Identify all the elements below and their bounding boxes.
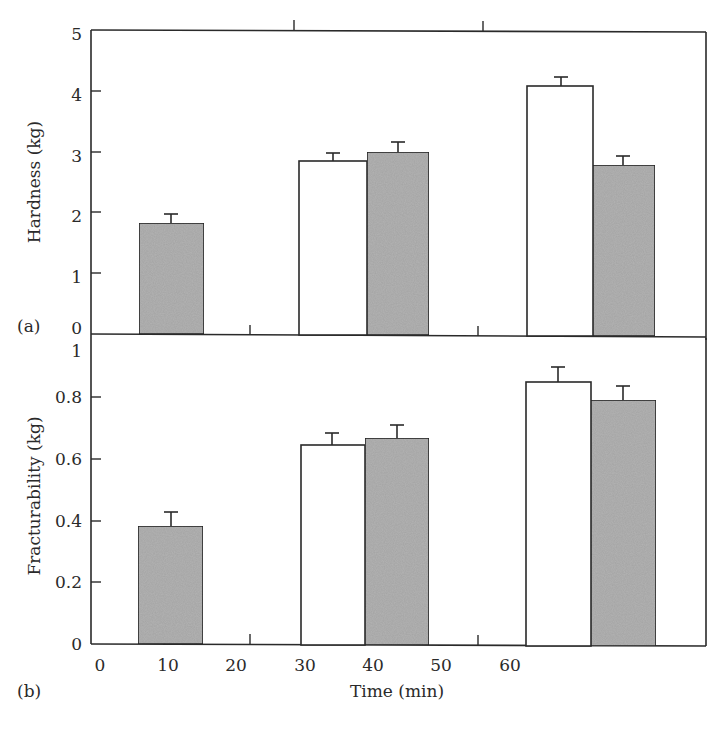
panel-b-ylabel: Fracturability (kg)	[24, 416, 44, 575]
panel-a-bars	[139, 86, 655, 336]
panel-a-ylabel: Hardness (kg)	[24, 121, 44, 243]
panel-b: 1 0.8 0.6 0.4 0.2 0 0 10 20 30 40 50 60 …	[17, 335, 706, 701]
ytick-label: 0.8	[55, 387, 82, 407]
xtick-label: 20	[225, 655, 247, 675]
panel-b-label: (b)	[17, 681, 41, 701]
bar-b-group3-gray	[591, 400, 656, 646]
panel-a: 5 4 3 2 1 0 Hardness (kg) (a)	[17, 20, 706, 340]
panel-b-xlabel: Time (min)	[350, 681, 444, 701]
ytick-label: 0	[71, 318, 82, 338]
bar-a-group1-gray	[139, 223, 204, 334]
xtick-label: 60	[499, 655, 521, 675]
bar-a-group2-white	[299, 161, 367, 335]
panel-b-xtick-labels: 0 10 20 30 40 50 60	[95, 655, 521, 675]
panel-b-ytick-labels: 1 0.8 0.6 0.4 0.2 0	[55, 341, 82, 654]
figure: 5 4 3 2 1 0 Hardness (kg) (a)	[0, 0, 725, 729]
ytick-label: 0	[71, 634, 82, 654]
ytick-label: 1	[71, 341, 82, 361]
xtick-label: 10	[157, 655, 179, 675]
ytick-label: 2	[71, 206, 82, 226]
xtick-label: 40	[362, 655, 384, 675]
xtick-label: 30	[294, 655, 316, 675]
xtick-label: 0	[95, 655, 106, 675]
bar-b-group2-gray	[365, 438, 429, 645]
panel-a-label: (a)	[17, 316, 40, 336]
ytick-label: 0.4	[55, 511, 82, 531]
ytick-label: 3	[71, 146, 82, 166]
ytick-label: 1	[71, 267, 82, 287]
bar-a-group2-gray	[367, 152, 429, 335]
xtick-label: 50	[430, 655, 452, 675]
bar-b-group3-white	[526, 382, 591, 646]
bar-b-group1-gray	[138, 526, 203, 644]
ytick-label: 0.2	[55, 572, 82, 592]
bar-a-group3-white	[527, 86, 593, 336]
bar-a-group3-gray	[593, 165, 655, 336]
panel-a-ytick-labels: 5 4 3 2 1 0	[71, 24, 82, 338]
bar-b-group2-white	[301, 445, 365, 645]
panel-b-bars	[138, 382, 656, 646]
ytick-label: 0.6	[55, 449, 82, 469]
ytick-label: 5	[71, 24, 82, 44]
ytick-label: 4	[71, 85, 82, 105]
